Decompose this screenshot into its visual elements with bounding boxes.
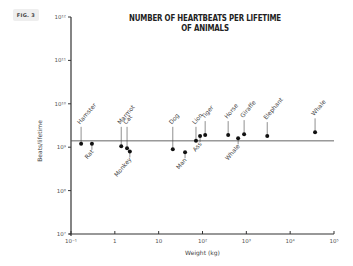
x-tick-label: 10⁻¹ [65,238,77,244]
x-axis-label: Weight (kg) [185,249,220,257]
data-point [183,150,187,154]
data-point [128,149,132,153]
x-tick-label: 1 [113,238,117,244]
data-point [198,134,202,138]
point-label: Whale [223,142,241,161]
data-point [242,132,246,136]
y-tick-label: 10¹⁰ [55,101,67,107]
point-label: Whale [309,98,327,117]
data-point [171,147,175,151]
data-point [90,142,94,146]
data-point [313,130,317,134]
point-label: Dog [167,112,181,127]
point-label: Giraffe [239,99,258,119]
y-tick-label: 10⁷ [57,231,66,237]
y-tick-label: 10¹² [55,14,66,20]
x-tick-label: 10 [155,238,162,244]
data-point [79,142,83,146]
y-axis-label: Beats/lifetime [36,120,43,162]
data-point [119,144,123,148]
point-label: Rat [83,147,95,160]
x-tick-label: 10³ [242,238,251,244]
point-label: Hamster [76,101,98,126]
point-label: Ass [191,140,203,152]
scatter-plot: 10⁷10⁸10⁹10¹⁰10¹¹10¹²10⁻¹11010²10³10⁴10⁵… [0,0,353,266]
x-tick-label: 10⁵ [329,238,338,244]
x-tick-label: 10⁴ [286,238,296,244]
data-point [236,136,240,140]
point-label: Elephant [262,95,286,121]
point-label: Man [174,156,188,170]
y-tick-label: 10⁸ [57,188,67,194]
y-tick-label: 10¹¹ [55,57,66,63]
data-point [125,146,129,150]
point-label: Monkey [112,155,133,178]
y-tick-label: 10⁹ [57,144,66,150]
data-point [265,134,269,138]
point-label: Horse [223,102,240,120]
data-point [226,133,230,137]
x-tick-label: 10² [198,238,207,244]
data-point [203,133,207,137]
